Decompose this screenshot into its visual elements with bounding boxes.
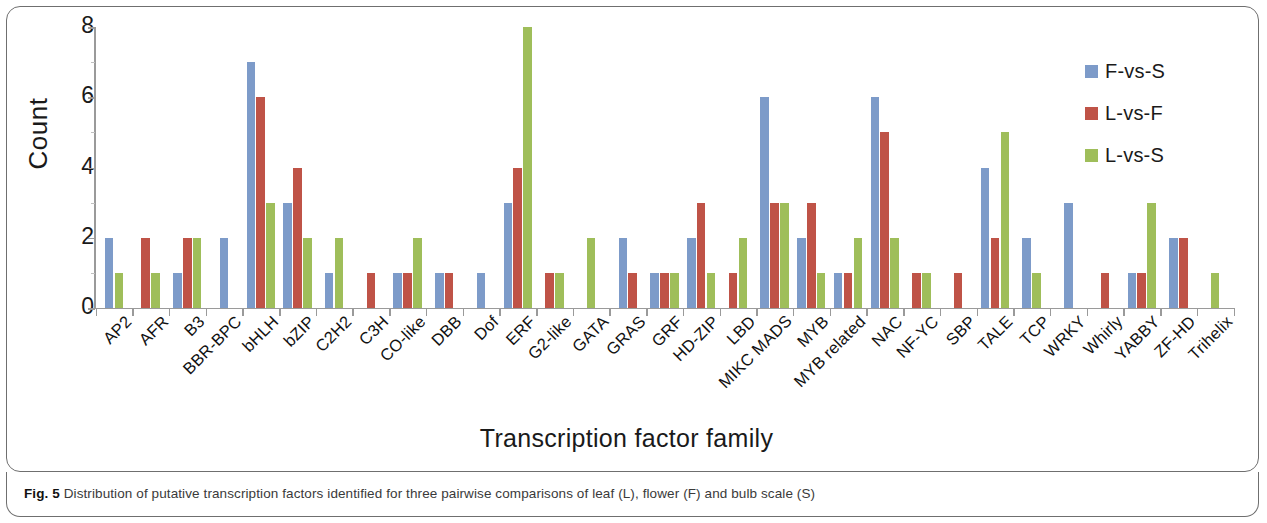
bar-f-vs-s-mikc-mads <box>760 97 769 308</box>
y-tick-mark <box>88 308 95 310</box>
y-axis-title: Count <box>23 34 54 234</box>
bar-f-vs-s-bzip <box>283 203 292 308</box>
legend-swatch-icon <box>1085 149 1098 162</box>
bar-f-vs-s-gras <box>619 238 628 308</box>
bar-l-vs-s-lbd <box>739 238 748 308</box>
y-axis: Count 02468 <box>22 0 94 320</box>
bar-group <box>1050 27 1087 308</box>
bar-group <box>206 27 243 308</box>
bar-l-vs-f-dbb <box>445 273 454 308</box>
bar-group <box>389 27 426 308</box>
y-minor-tick-mark <box>91 132 95 133</box>
bar-l-vs-s-erf <box>523 27 532 308</box>
bar-l-vs-s-gata <box>587 238 596 308</box>
bar-group <box>499 27 536 308</box>
bar-group <box>536 27 573 308</box>
bar-group <box>169 27 206 308</box>
bar-f-vs-s-b3 <box>173 273 182 308</box>
bar-f-vs-s-tale <box>981 168 990 309</box>
bar-l-vs-s-b3 <box>193 238 202 308</box>
legend-item-l-vs-f: L-vs-F <box>1085 92 1235 134</box>
bar-group <box>940 27 977 308</box>
x-tick-label: bZIP <box>280 312 319 351</box>
bar-l-vs-s-mikc-mads <box>780 203 789 308</box>
bar-f-vs-s-nac <box>871 97 880 308</box>
bar-group <box>609 27 646 308</box>
legend-swatch-icon <box>1085 107 1098 120</box>
y-tick-label: 4 <box>60 155 94 178</box>
bar-f-vs-s-ap2 <box>105 238 114 308</box>
y-minor-tick-mark <box>91 203 95 204</box>
bar-l-vs-s-tale <box>1001 132 1010 308</box>
bar-l-vs-f-c3h <box>367 273 376 308</box>
bar-group <box>573 27 610 308</box>
bar-f-vs-s-hd-zip <box>687 238 696 308</box>
bar-l-vs-s-myb-related <box>854 238 863 308</box>
bar-group <box>903 27 940 308</box>
bar-l-vs-s-hd-zip <box>707 273 716 308</box>
bar-f-vs-s-grf <box>650 273 659 308</box>
bar-l-vs-f-myb-related <box>844 273 853 308</box>
x-tick-label: Dof <box>470 312 502 344</box>
bar-f-vs-s-wrky <box>1064 203 1073 308</box>
x-tick-label: AFR <box>135 312 172 349</box>
bar-group <box>866 27 903 308</box>
bar-group <box>426 27 463 308</box>
x-tick-mark <box>1234 308 1236 316</box>
bar-l-vs-f-grf <box>660 273 669 308</box>
bar-f-vs-s-yabby <box>1128 273 1137 308</box>
bar-group <box>132 27 169 308</box>
y-tick-label: 0 <box>60 295 94 318</box>
bar-l-vs-s-bhlh <box>266 203 275 308</box>
bars-area <box>96 27 1234 308</box>
bar-l-vs-f-bzip <box>293 168 302 309</box>
x-axis-tick-labels: AP2AFRB3BBR-BPCbHLHbZIPC2H2C3HCO-likeDBB… <box>96 312 1234 432</box>
x-tick-label: bHLH <box>238 312 282 356</box>
y-minor-tick-mark <box>91 62 95 63</box>
chart-legend: F-vs-SL-vs-FL-vs-S <box>1085 50 1235 176</box>
bar-l-vs-f-nac <box>880 132 889 308</box>
bar-l-vs-f-nf-yc <box>912 273 921 308</box>
bar-group <box>756 27 793 308</box>
bar-group <box>463 27 500 308</box>
x-tick-label: TALE <box>974 312 1016 354</box>
bar-f-vs-s-co-like <box>393 273 402 308</box>
bar-group <box>242 27 279 308</box>
bar-l-vs-f-yabby <box>1137 273 1146 308</box>
bar-f-vs-s-erf <box>504 203 513 308</box>
legend-item-l-vs-s: L-vs-S <box>1085 134 1235 176</box>
bar-group <box>279 27 316 308</box>
y-tick-label: 8 <box>60 14 94 37</box>
legend-item-f-vs-s: F-vs-S <box>1085 50 1235 92</box>
bar-l-vs-f-myb <box>807 203 816 308</box>
bar-group <box>646 27 683 308</box>
y-tick-mark <box>88 97 95 99</box>
bar-f-vs-s-dof <box>477 273 486 308</box>
figure-container: Count 02468 AP2AFRB3BBR-BPCbHLHbZIPC2H2C… <box>0 0 1267 523</box>
bar-l-vs-s-c2h2 <box>335 238 344 308</box>
bar-l-vs-f-mikc-mads <box>770 203 779 308</box>
bar-l-vs-s-co-like <box>413 238 422 308</box>
x-tick-label: B3 <box>181 312 209 340</box>
bar-group <box>352 27 389 308</box>
bar-l-vs-s-grf <box>670 273 679 308</box>
bar-group <box>793 27 830 308</box>
bar-l-vs-f-sbp <box>954 273 963 308</box>
bar-f-vs-s-bhlh <box>247 62 256 308</box>
x-tick-label: C2H2 <box>312 312 356 356</box>
bar-f-vs-s-dbb <box>435 273 444 308</box>
figure-caption-text: Distribution of putative transcription f… <box>60 486 815 501</box>
x-axis-title: Transcription factor family <box>0 424 1253 453</box>
bar-l-vs-f-afr <box>141 238 150 308</box>
bar-group <box>830 27 867 308</box>
bar-f-vs-s-tcp <box>1022 238 1031 308</box>
bar-l-vs-f-zf-hd <box>1179 238 1188 308</box>
bar-l-vs-s-ap2 <box>115 273 124 308</box>
bar-l-vs-s-yabby <box>1147 203 1156 308</box>
bar-l-vs-f-co-like <box>403 273 412 308</box>
bar-group <box>720 27 757 308</box>
bar-group <box>96 27 133 308</box>
bar-l-vs-f-lbd <box>729 273 738 308</box>
legend-swatch-icon <box>1085 65 1098 78</box>
chart-plot: Count 02468 AP2AFRB3BBR-BPCbHLHbZIPC2H2C… <box>0 0 1253 466</box>
